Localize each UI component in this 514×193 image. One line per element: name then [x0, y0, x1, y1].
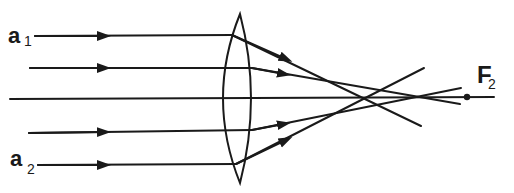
label-a1-subscript: 1	[24, 33, 32, 49]
ray-paraxial-bottom	[29, 88, 461, 133]
label-a2: a	[10, 146, 23, 171]
label-focus-subscript: 2	[488, 76, 496, 92]
label-a2-subscript: 2	[27, 161, 35, 177]
lens-diagram: a 1 a 2 F 2	[0, 0, 514, 193]
ray-a2	[38, 68, 424, 165]
focal-point-dot	[464, 94, 470, 100]
label-a1: a	[8, 23, 21, 48]
